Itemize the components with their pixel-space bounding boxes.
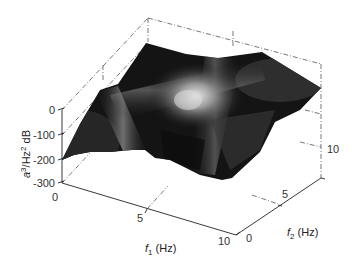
x-tick-0: 0 xyxy=(52,191,58,203)
y-tick-0: 0 xyxy=(246,232,252,244)
y-tick-10: 10 xyxy=(327,143,339,155)
y-axis-label: f2 (Hz) xyxy=(287,226,318,241)
z-axis-label: a3/Hz2 dB xyxy=(19,130,32,178)
surface-plot: 0 -100 -200 -300 0 5 10 0 5 10 f1 (Hz) f… xyxy=(0,0,352,265)
z-tick-100: -100 xyxy=(33,129,55,141)
x-tick-5: 5 xyxy=(137,212,143,224)
y-tick-labels: 0 5 10 xyxy=(246,143,339,244)
z-tick-300: -300 xyxy=(33,177,55,189)
z-tick-labels: 0 -100 -200 -300 xyxy=(33,104,55,189)
x-tick-10: 10 xyxy=(218,235,230,247)
z-tick-200: -200 xyxy=(33,154,55,166)
z-tick-0: 0 xyxy=(49,104,55,116)
y-tick-5: 5 xyxy=(282,188,288,200)
x-axis-label: f1 (Hz) xyxy=(145,242,176,257)
x-tick-labels: 0 5 10 xyxy=(52,191,230,247)
